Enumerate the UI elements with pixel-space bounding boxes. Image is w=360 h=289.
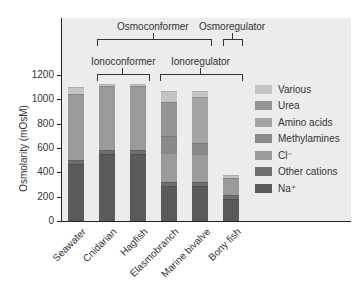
y-tick-label: 0: [20, 216, 54, 226]
y-tick: [57, 221, 62, 222]
bar-segment: [192, 154, 208, 182]
x-tick-label: Bony fish: [206, 226, 243, 263]
bar-segment: [192, 97, 208, 143]
bar-segment: [161, 91, 177, 102]
legend-swatch: [255, 167, 272, 176]
bar-segment: [68, 87, 84, 94]
bar-segment: [223, 178, 239, 195]
bar-segment: [192, 91, 208, 97]
bar-segment: [223, 175, 239, 179]
bar-segment: [68, 160, 84, 164]
bar-segment: [99, 150, 115, 154]
y-tick: [57, 124, 62, 125]
y-tick: [57, 75, 62, 76]
legend-swatch: [255, 85, 272, 94]
legend-label: Urea: [278, 100, 300, 111]
bar-segment: [99, 86, 115, 150]
y-tick: [57, 148, 62, 149]
bar-segment: [130, 86, 146, 150]
ionoconformer-label: Ionoconformer: [91, 56, 155, 67]
bar-segment: [130, 150, 146, 154]
bar-segment: [130, 84, 146, 86]
osmoconformer-label: Osmoconformer: [117, 21, 189, 32]
y-tick-label: 1200: [20, 70, 54, 80]
bar-segment: [99, 154, 115, 221]
bar-segment: [223, 199, 239, 221]
osmoregulator-bracket: [223, 39, 243, 46]
legend-label: Amino acids: [278, 117, 332, 128]
bar-segment: [161, 186, 177, 221]
y-tick: [57, 197, 62, 198]
bar-segment: [192, 182, 208, 186]
bar-segment: [161, 136, 177, 153]
legend-item: Amino acids: [255, 116, 332, 128]
ionoregulator-bracket: [160, 74, 243, 81]
legend-swatch: [255, 151, 272, 160]
y-tick: [57, 99, 62, 100]
legend-item: Urea: [255, 100, 300, 112]
legend-label: Other cations: [278, 166, 337, 177]
legend-label: Na⁺: [278, 183, 296, 194]
legend-item: Various: [255, 83, 311, 95]
bar-segment: [192, 143, 208, 154]
bar-segment: [68, 94, 84, 160]
bar-segment: [223, 195, 239, 199]
legend-swatch: [255, 134, 272, 143]
bar-segment: [192, 186, 208, 221]
legend-swatch: [255, 184, 272, 193]
legend-swatch: [255, 118, 272, 127]
legend-label: Various: [278, 84, 311, 95]
bar-segment: [161, 153, 177, 182]
osmoconformer-bracket: [97, 39, 212, 46]
legend-item: Other cations: [255, 166, 337, 178]
x-axis: [61, 221, 351, 222]
legend-swatch: [255, 101, 272, 110]
legend-item: Cl⁻: [255, 149, 292, 161]
ionoconformer-bracket: [97, 74, 150, 81]
y-axis: [61, 18, 62, 222]
osmoregulator-label: Osmoregulator: [199, 21, 265, 32]
legend-label: Cl⁻: [278, 150, 292, 161]
bar-segment: [130, 154, 146, 221]
ionoregulator-label: Ionoregulator: [171, 56, 230, 67]
legend-item: Na⁺: [255, 182, 296, 194]
y-tick: [57, 172, 62, 173]
legend-label: Methylamines: [278, 133, 340, 144]
bar-segment: [68, 164, 84, 221]
y-axis-title: Osmolarity (mOsM): [18, 94, 29, 204]
bar-segment: [99, 84, 115, 86]
legend-item: Methylamines: [255, 133, 340, 145]
bar-segment: [161, 102, 177, 136]
bar-segment: [161, 182, 177, 186]
